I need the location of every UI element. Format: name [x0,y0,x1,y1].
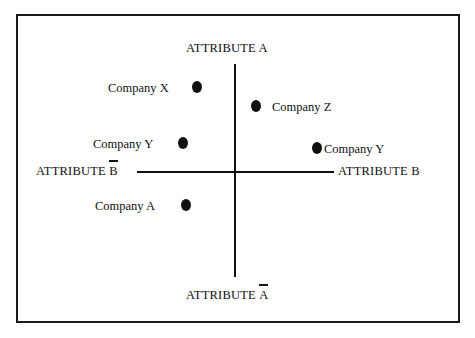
axis-label-bottom-base: ATTRIBUTE [186,288,259,302]
axis-label-left-negated-letter: B [109,165,118,178]
overline-bar-bottom [259,284,268,286]
axis-label-top: ATTRIBUTE A [186,42,268,55]
point-label-company-z: Company Z [272,101,331,114]
data-point-company-z [251,100,261,112]
data-point-company-y-left [178,137,188,149]
axis-label-bottom: ATTRIBUTE A [186,289,268,302]
axis-label-bottom-negated-letter: A [259,289,268,302]
data-point-company-y-right [312,142,322,154]
perceptual-map-figure: ATTRIBUTE A ATTRIBUTE A ATTRIBUTE B ATTR… [0,0,475,338]
point-label-text: Company Y [93,137,153,151]
point-label-company-x: Company X [108,82,169,95]
axis-label-top-text: ATTRIBUTE A [186,41,268,55]
point-label-text: Company X [108,81,169,95]
point-label-company-a: Company A [95,200,155,213]
point-label-text: Company Y [324,142,384,156]
axis-label-right-text: ATTRIBUTE B [338,164,420,178]
axis-label-bottom-letter: A [259,288,268,302]
point-label-company-y-right: Company Y [324,143,384,156]
axis-label-left-letter: B [109,164,118,178]
point-label-text: Company A [95,199,155,213]
axis-label-left: ATTRIBUTE B [36,165,118,178]
point-label-text: Company Z [272,100,331,114]
axis-label-left-base: ATTRIBUTE [36,164,109,178]
axis-label-right: ATTRIBUTE B [338,165,420,178]
horizontal-axis-line [137,171,334,173]
overline-bar-left [109,160,118,162]
point-label-company-y-left: Company Y [93,138,153,151]
data-point-company-a [181,199,191,211]
data-point-company-x [192,81,202,93]
